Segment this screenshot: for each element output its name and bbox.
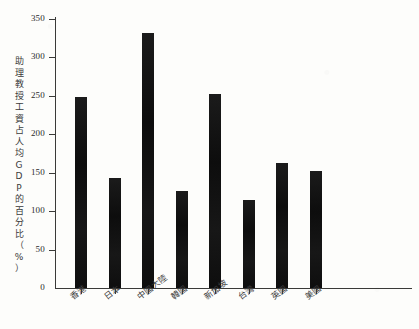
bar — [310, 171, 322, 288]
bar — [209, 94, 221, 288]
bar — [75, 97, 87, 288]
y-axis-title-char: 工 — [12, 102, 26, 114]
y-axis-title-char: 分 — [12, 217, 26, 229]
bar — [176, 191, 188, 288]
y-axis-tick-label: 300 — [15, 52, 45, 61]
chart-figure: 助理教授工資占人均GDP的百分比（%） 05010015020025030035… — [0, 0, 419, 329]
y-axis-title-char: 資 — [12, 114, 26, 126]
y-axis-title-char: P — [12, 183, 26, 195]
y-axis-title-char: 均 — [12, 148, 26, 160]
y-axis-tick-label: 150 — [15, 168, 45, 177]
bar — [243, 200, 255, 288]
y-axis-title-char: 理 — [12, 68, 26, 80]
y-axis-title-char: 教 — [12, 79, 26, 91]
y-axis-title-char: 比 — [12, 229, 26, 241]
y-axis-title-char: 的 — [12, 194, 26, 206]
plot-area — [56, 19, 411, 288]
bar — [109, 178, 121, 288]
y-axis-tick-label: 100 — [15, 206, 45, 215]
y-axis-title: 助理教授工資占人均GDP的百分比（%） — [12, 56, 26, 275]
y-axis-tick-label: 350 — [15, 14, 45, 23]
y-axis-tick-label: 50 — [15, 245, 45, 254]
y-axis-tick-label: 200 — [15, 129, 45, 138]
bar — [142, 33, 154, 288]
y-axis-tick-label: 250 — [15, 91, 45, 100]
bar — [276, 163, 288, 288]
y-axis-tick-label: 0 — [15, 283, 45, 292]
y-axis-title-char: ） — [12, 263, 26, 275]
